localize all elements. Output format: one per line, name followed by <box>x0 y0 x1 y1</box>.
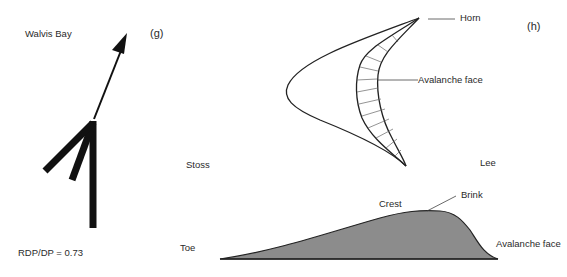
horn-label: Horn <box>460 12 481 23</box>
location-label: Walvis Bay <box>25 28 72 39</box>
lee-label: Lee <box>480 157 496 168</box>
avalanche-face-plan-label: Avalanche face <box>418 74 483 85</box>
panel-h-label: (h) <box>527 20 540 32</box>
diagram-canvas <box>0 0 567 277</box>
panel-g-label: (g) <box>150 27 163 39</box>
toe-label: Toe <box>180 242 195 253</box>
brink-label: Brink <box>461 189 483 200</box>
stoss-label: Stoss <box>186 159 210 170</box>
crest-label: Crest <box>379 198 402 209</box>
ratio-label: RDP/DP = 0.73 <box>18 247 83 258</box>
barchan-profile-view <box>220 196 498 259</box>
wind-rose <box>45 121 93 228</box>
barchan-plan-view <box>286 18 455 166</box>
resultant-arrow-icon <box>94 33 127 119</box>
avalanche-face-profile-label: Avalanche face <box>496 238 561 249</box>
brink-leader-line <box>427 196 456 211</box>
